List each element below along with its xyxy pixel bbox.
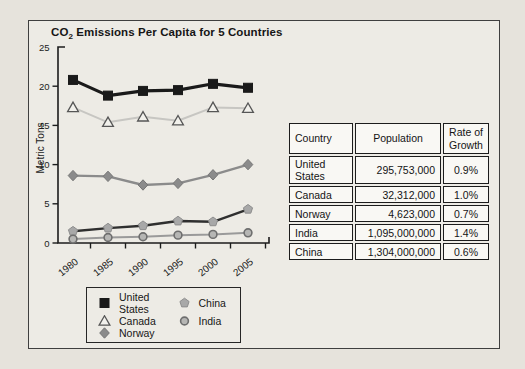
- chart-title: CO2 Emissions Per Capita for 5 Countries: [51, 26, 283, 41]
- legend-item-united-states: United States: [98, 291, 178, 315]
- legend-label: India: [199, 315, 222, 327]
- svg-text:1990: 1990: [126, 256, 151, 279]
- co2-line-chart: 0510152025198019851990199520002005: [29, 21, 319, 289]
- table-header-country: Country: [289, 123, 353, 154]
- legend-item-china: China: [178, 291, 240, 315]
- table-cell-population: 1,304,000,000: [355, 243, 441, 260]
- table-cell-country: Canada: [289, 186, 353, 203]
- svg-text:5: 5: [44, 198, 49, 209]
- table-row: Canada 32,312,000 1.0%: [289, 186, 489, 203]
- table-cell-rate: 1.0%: [443, 186, 489, 203]
- legend-label: United States: [119, 291, 178, 315]
- table-cell-country: India: [289, 224, 353, 241]
- india-marker-icon: [178, 315, 191, 327]
- legend-item-india: India: [178, 315, 240, 327]
- page: { "chart": { "title": { "prefix": "CO", …: [0, 0, 525, 369]
- legend-item-norway: Norway: [98, 327, 178, 339]
- legend-label: China: [199, 297, 226, 309]
- table-cell-country: China: [289, 243, 353, 260]
- table-header-row: Country Population Rate of Growth: [289, 123, 489, 154]
- svg-text:2000: 2000: [196, 256, 221, 279]
- population-table: Country Population Rate of Growth United…: [287, 121, 491, 262]
- table-cell-rate: 1.4%: [443, 224, 489, 241]
- svg-text:1985: 1985: [91, 256, 116, 279]
- svg-text:20: 20: [39, 81, 50, 92]
- table-row: United States 295,753,000 0.9%: [289, 156, 489, 184]
- svg-text:0: 0: [44, 238, 49, 249]
- united-states-marker-icon: [98, 297, 111, 309]
- chart-legend: United States Canada Norway China India: [86, 287, 241, 343]
- table-row: India 1,095,000,000 1.4%: [289, 224, 489, 241]
- table-cell-country: United States: [289, 156, 353, 184]
- svg-text:1980: 1980: [56, 256, 81, 279]
- table-header-rate-of-growth: Rate of Growth: [443, 123, 489, 154]
- canada-marker-icon: [98, 315, 111, 327]
- table-cell-rate: 0.9%: [443, 156, 489, 184]
- svg-text:25: 25: [39, 42, 50, 53]
- table-cell-population: 1,095,000,000: [355, 224, 441, 241]
- table-header-population: Population: [355, 123, 441, 154]
- svg-text:2005: 2005: [231, 256, 256, 279]
- figure-frame: 0510152025198019851990199520002005 CO2 E…: [28, 20, 500, 349]
- table-cell-population: 32,312,000: [355, 186, 441, 203]
- table-cell-rate: 0.7%: [443, 205, 489, 222]
- y-axis-label: Metric Tons: [35, 123, 46, 174]
- china-marker-icon: [178, 297, 191, 309]
- table-cell-country: Norway: [289, 205, 353, 222]
- legend-label: Norway: [119, 327, 155, 339]
- table-row: Norway 4,623,000 0.7%: [289, 205, 489, 222]
- table-cell-rate: 0.6%: [443, 243, 489, 260]
- table-cell-population: 295,753,000: [355, 156, 441, 184]
- norway-marker-icon: [98, 327, 111, 339]
- legend-item-canada: Canada: [98, 315, 178, 327]
- svg-text:1995: 1995: [161, 256, 186, 279]
- legend-label: Canada: [119, 315, 156, 327]
- table-row: China 1,304,000,000 0.6%: [289, 243, 489, 260]
- table-cell-population: 4,623,000: [355, 205, 441, 222]
